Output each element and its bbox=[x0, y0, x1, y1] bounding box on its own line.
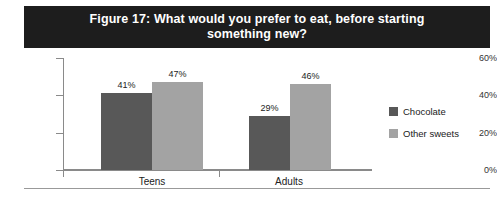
y-axis-label: 40% bbox=[445, 90, 497, 100]
y-axis-tick bbox=[56, 170, 63, 171]
legend-item-other-sweets: Other sweets bbox=[389, 128, 459, 139]
bar-value-label: 47% bbox=[168, 69, 186, 79]
figure-container: Figure 17: What would you prefer to eat,… bbox=[0, 0, 497, 201]
x-axis-category-label: Adults bbox=[275, 176, 303, 187]
figure-title-line-1: Figure 17: What would you prefer to eat,… bbox=[90, 12, 425, 26]
footer-divider bbox=[24, 188, 490, 189]
y-axis-label: 60% bbox=[445, 53, 497, 63]
y-axis-label: 0% bbox=[445, 165, 497, 175]
x-axis-start-tick bbox=[63, 171, 64, 177]
y-axis-tick bbox=[56, 95, 63, 96]
bar-adults-chocolate bbox=[249, 116, 290, 170]
legend-swatch-icon bbox=[389, 129, 398, 138]
chart-legend: ChocolateOther sweets bbox=[389, 106, 459, 150]
bar-value-label: 29% bbox=[260, 103, 278, 113]
bar-teens-other-sweets bbox=[152, 82, 203, 170]
figure-title: Figure 17: What would you prefer to eat,… bbox=[90, 12, 425, 42]
y-axis-tick bbox=[56, 133, 63, 134]
legend-item-chocolate: Chocolate bbox=[389, 106, 459, 117]
legend-swatch-icon bbox=[389, 107, 398, 116]
bar-teens-chocolate bbox=[101, 93, 152, 170]
bar-adults-other-sweets bbox=[290, 84, 331, 170]
bar-value-label: 41% bbox=[117, 80, 135, 90]
figure-title-banner: Figure 17: What would you prefer to eat,… bbox=[24, 6, 490, 48]
y-axis-tick bbox=[56, 58, 63, 59]
x-axis-category-label: Teens bbox=[139, 176, 166, 187]
figure-title-line-2: something new? bbox=[207, 27, 307, 41]
legend-item-label: Other sweets bbox=[403, 128, 459, 139]
x-axis-category-separator bbox=[219, 171, 220, 177]
legend-item-label: Chocolate bbox=[403, 106, 446, 117]
bar-value-label: 46% bbox=[301, 71, 319, 81]
plot-area bbox=[63, 58, 372, 170]
